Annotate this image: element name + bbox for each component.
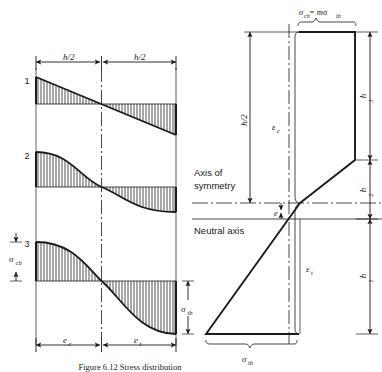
neutral-axis-label: Neutral axis bbox=[194, 225, 244, 236]
h-half-right-panel-label: h/2 bbox=[239, 114, 249, 126]
eccentricity-label: e bbox=[274, 208, 278, 218]
eccentricity-dimension: e bbox=[274, 203, 281, 219]
sigma-cb-label: σ bbox=[9, 254, 14, 264]
epsilon-c-subscript: c bbox=[277, 127, 280, 134]
right-panel: σ cb = mσ tb h/2 ε bbox=[192, 7, 382, 366]
left-top-dimension bbox=[36, 56, 176, 70]
diagram-3-number: 3 bbox=[24, 239, 29, 249]
left-bottom-dimension: e c e t bbox=[36, 335, 176, 352]
ec-label: e bbox=[63, 335, 67, 345]
left-panel: 1 bbox=[9, 52, 194, 352]
diagram-1-number: 1 bbox=[24, 76, 29, 86]
h1-dimension: h 1 bbox=[356, 219, 378, 334]
diagram-2-number: 2 bbox=[24, 151, 29, 161]
et-label: e bbox=[134, 335, 138, 345]
axis-of-symmetry-label-line2: symmetry bbox=[194, 180, 235, 191]
axis-of-symmetry-label-line1: Axis of bbox=[194, 167, 223, 178]
stress-diagram-2: 2 bbox=[24, 140, 176, 230]
sigma-tb-bottom-subscript: tb bbox=[248, 359, 254, 366]
h2-label: h bbox=[358, 187, 368, 192]
stress-diagram-3: 3 bbox=[24, 230, 176, 345]
h3-subscript: 3 bbox=[367, 99, 374, 104]
sigma-cb-brace bbox=[298, 18, 356, 26]
ec-subscript: c bbox=[69, 340, 72, 347]
sigma-cb-equals-label: = mσ bbox=[309, 7, 328, 17]
sigma-tb-bottom-label: σ bbox=[242, 354, 247, 364]
h-half-left-label: h/2 bbox=[63, 52, 75, 62]
sigma-cb-subscript: cb bbox=[16, 259, 23, 266]
h3-label: h bbox=[358, 93, 368, 98]
strain-block-sides bbox=[295, 32, 300, 334]
sigma-cb-dimension: σ cb bbox=[9, 233, 22, 281]
et-subscript: t bbox=[140, 340, 142, 347]
figure-caption: Figure 6.12 Stress distribution bbox=[79, 362, 183, 372]
h1-label: h bbox=[358, 273, 368, 278]
sigma-tb-top-subscript: tb bbox=[336, 13, 341, 19]
epsilon-c-label: ε bbox=[272, 122, 276, 132]
h1-subscript: 1 bbox=[367, 279, 374, 282]
h2-subscript: 2 bbox=[367, 193, 374, 197]
sigma-tb-label: σ bbox=[181, 304, 186, 314]
h2-dimension: h 2 bbox=[356, 160, 378, 219]
stress-diagram-1: 1 bbox=[24, 60, 176, 150]
h-half-dimension: h/2 bbox=[239, 32, 300, 203]
epsilon-t-label: ε bbox=[306, 264, 310, 274]
figure-container: 1 bbox=[0, 0, 382, 372]
epsilon-t-subscript: t bbox=[311, 269, 313, 276]
sigma-tb-bottom-brace bbox=[206, 340, 297, 348]
sigma-tb-subscript: tb bbox=[188, 309, 194, 316]
sigma-tb-dimension: σ tb bbox=[181, 281, 194, 334]
figure-drawing: 1 bbox=[0, 0, 382, 372]
h-half-right-label: h/2 bbox=[134, 52, 146, 62]
h3-dimension: h 3 bbox=[356, 32, 378, 160]
